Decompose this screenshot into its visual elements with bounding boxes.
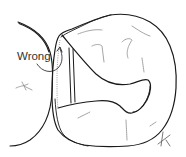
adjacent-tooth-outline [10,22,53,146]
diagram-canvas: Wrong [0,0,186,157]
tooth-diagram [0,0,186,157]
wall-double-line [69,48,75,103]
cavity-preparation-outline [58,35,151,113]
orientation-mark [158,132,170,146]
wrong-label: Wrong [17,51,51,63]
